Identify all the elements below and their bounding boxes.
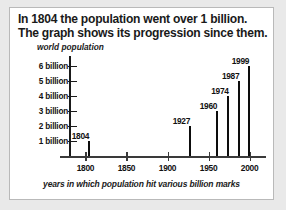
y-axis-tick: 3 billion <box>10 111 77 112</box>
y-axis-tick-mark <box>68 141 77 142</box>
x-axis-tick-label: 1900 <box>159 163 176 173</box>
bar <box>238 81 240 156</box>
y-axis-tick-label: 6 billion <box>39 62 68 71</box>
y-axis-tick-mark <box>68 126 77 127</box>
y-axis-tick-mark <box>68 111 77 112</box>
page-title: In 1804 the population went over 1 billi… <box>18 13 268 40</box>
bar <box>248 66 250 156</box>
x-axis-tick-mark <box>168 152 169 161</box>
bar-value-label: 1804 <box>72 131 89 141</box>
population-bar-chart: world population 1 billion2 billion3 bil… <box>10 42 273 199</box>
y-axis-tick-label: 4 billion <box>39 92 68 101</box>
chart-panel: In 1804 the population went over 1 billi… <box>9 7 274 200</box>
y-axis-label: world population <box>37 42 104 52</box>
y-axis-tick-label: 3 billion <box>39 107 68 116</box>
bar-value-label: 1960 <box>200 101 217 111</box>
y-axis-tick-label: 1 billion <box>39 137 68 146</box>
bar <box>216 111 218 156</box>
y-axis-tick: 2 billion <box>10 126 77 127</box>
bar-value-label: 1987 <box>222 71 239 81</box>
y-axis-tick: 5 billion <box>10 81 77 82</box>
y-axis-tick: 6 billion <box>10 66 77 67</box>
y-axis-tick-mark <box>68 81 77 82</box>
x-axis-tick-mark <box>209 152 210 161</box>
x-axis-caption: years in which population hit various bi… <box>10 179 273 189</box>
bar <box>88 141 90 156</box>
title-line-2: The graph shows its progression since th… <box>18 27 268 41</box>
bar-value-label: 1999 <box>232 56 249 66</box>
y-axis-tick: 1 billion <box>10 141 77 142</box>
y-axis-tick: 4 billion <box>10 96 77 97</box>
bar <box>227 96 229 156</box>
y-axis-tick-mark <box>68 96 77 97</box>
bar-value-label: 1974 <box>211 86 228 96</box>
title-line-1: In 1804 the population went over 1 billi… <box>18 13 268 27</box>
bar-value-label: 1927 <box>173 116 190 126</box>
bar <box>189 126 191 156</box>
x-axis-tick-label: 1800 <box>77 163 94 173</box>
x-axis-tick-mark <box>85 152 86 161</box>
x-axis-line <box>60 156 266 158</box>
x-axis-tick-label: 1950 <box>200 163 217 173</box>
y-axis-tick-label: 2 billion <box>39 122 68 131</box>
x-axis-tick-mark <box>126 152 127 161</box>
x-axis-tick-label: 1850 <box>118 163 135 173</box>
x-axis-tick-label: 2000 <box>241 163 258 173</box>
y-axis-tick-label: 5 billion <box>39 77 68 86</box>
y-axis-tick-mark <box>68 66 77 67</box>
